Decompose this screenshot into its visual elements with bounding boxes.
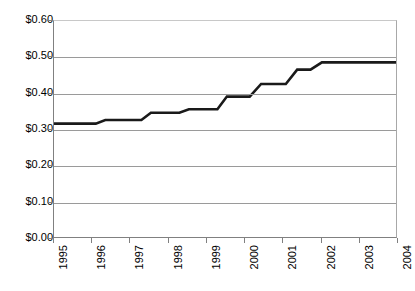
x-axis: 1995199619971998199920002001200220032004 <box>53 238 398 291</box>
x-tick-mark <box>244 238 245 243</box>
x-tick-mark <box>397 238 398 243</box>
x-tick-mark <box>206 238 207 243</box>
y-tick-label: $0.10 <box>5 196 53 207</box>
x-tick-mark <box>359 238 360 243</box>
plot-area <box>53 20 397 238</box>
gridline-$0.50 <box>54 57 396 58</box>
x-tick-mark <box>129 238 130 243</box>
x-tick-label: 2002 <box>326 245 337 269</box>
x-tick-label: 1998 <box>173 245 184 269</box>
x-tick-mark <box>168 238 169 243</box>
x-tick-label: 1997 <box>134 245 145 269</box>
y-axis: $0.00$0.10$0.20$0.30$0.40$0.50$0.60 <box>0 0 53 291</box>
gridline-$0.40 <box>54 94 396 95</box>
chart-title <box>0 0 415 7</box>
y-tick-label: $0.40 <box>5 87 53 98</box>
x-tick-label: 1999 <box>211 245 222 269</box>
x-tick-mark <box>53 238 54 243</box>
y-tick-label: $0.30 <box>5 123 53 134</box>
y-tick-label: $0.00 <box>5 232 53 243</box>
x-tick-label: 2001 <box>287 245 298 269</box>
price-series-line <box>54 62 396 123</box>
x-tick-label: 2003 <box>364 245 375 269</box>
y-tick-label: $0.20 <box>5 159 53 170</box>
x-tick-label: 2000 <box>249 245 260 269</box>
x-tick-mark <box>282 238 283 243</box>
x-tick-label: 2004 <box>402 245 413 269</box>
gridline-$0.10 <box>54 203 396 204</box>
gridline-$0.20 <box>54 166 396 167</box>
y-tick-label: $0.50 <box>5 50 53 61</box>
chart-container: $0.00$0.10$0.20$0.30$0.40$0.50$0.60 1995… <box>0 0 415 291</box>
x-tick-label: 1995 <box>58 245 69 269</box>
gridline-$0.30 <box>54 130 396 131</box>
x-tick-mark <box>91 238 92 243</box>
series-line-chart <box>54 21 396 237</box>
x-tick-mark <box>321 238 322 243</box>
y-tick-label: $0.60 <box>5 14 53 25</box>
x-tick-label: 1996 <box>96 245 107 269</box>
